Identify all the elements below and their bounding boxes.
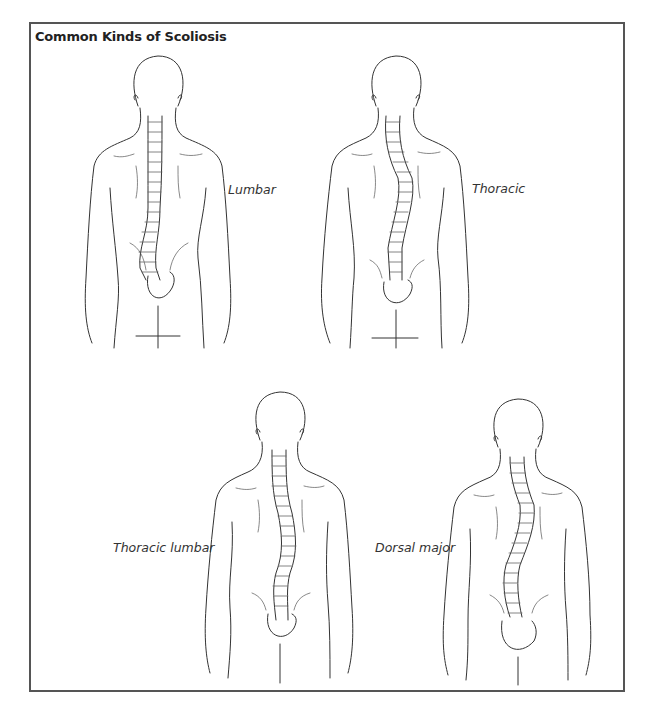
body-outline-icon — [205, 392, 353, 683]
label-lumbar: Lumbar — [228, 182, 276, 197]
spine-icon — [503, 457, 534, 617]
spine-icon — [386, 116, 414, 280]
label-thoracic-lumbar: Thoracic lumbar — [113, 540, 215, 555]
body-outline-icon — [321, 56, 468, 348]
back-figure-dorsal-major — [440, 395, 600, 690]
spine-icon — [139, 116, 162, 280]
label-dorsal-major: Dorsal major — [375, 540, 455, 555]
figure-title: Common Kinds of Scoliosis — [35, 29, 227, 44]
back-figure-thoracic-lumbar — [200, 388, 360, 688]
back-figure-thoracic — [318, 48, 478, 358]
back-figure-lumbar — [80, 48, 240, 358]
label-thoracic: Thoracic — [472, 181, 525, 196]
spine-icon — [272, 450, 296, 620]
body-outline-icon — [443, 399, 591, 685]
